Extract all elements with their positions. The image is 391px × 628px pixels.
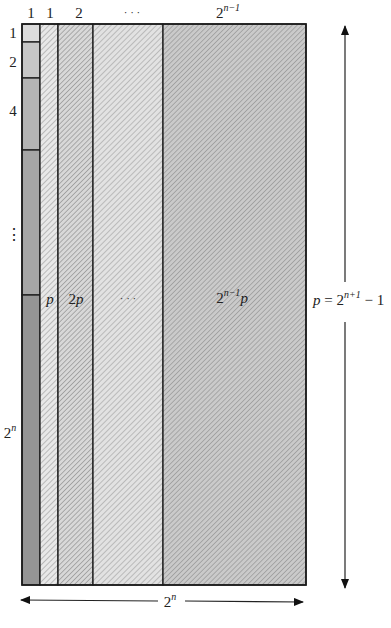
left-label-block-4: 4	[9, 103, 17, 119]
left-column	[22, 24, 40, 585]
strip-label-2: 2p	[69, 291, 85, 307]
strip-dots	[93, 24, 163, 585]
partition-diagram: 1 1 2 · · · 2n−1 1 2 4 ⋮ 2n p 2p · · · 2…	[0, 0, 391, 628]
height-dimension: p = 2n+1 − 1	[312, 26, 384, 588]
top-label-strip-1: 1	[46, 5, 54, 21]
top-labels: 1 1 2 · · · 2n−1	[27, 2, 240, 21]
strip-label-dots: · · ·	[120, 292, 137, 304]
left-label-block-2: 2	[9, 54, 17, 70]
left-block-2	[22, 42, 40, 78]
strip-last	[163, 24, 306, 585]
width-arrow-right	[185, 601, 303, 602]
top-label-strip-last: 2n−1	[216, 2, 240, 21]
top-label-strip-2: 2	[75, 5, 83, 21]
left-block-1	[22, 24, 40, 42]
top-label-left-column: 1	[27, 5, 35, 21]
strip-label-1: p	[45, 291, 54, 307]
left-label-block-dots: ⋮	[6, 226, 22, 243]
left-block-2n	[22, 295, 40, 585]
left-block-4	[22, 78, 40, 150]
left-label-block-1: 1	[9, 25, 17, 41]
width-dimension: 2n	[21, 591, 303, 610]
width-arrow-left	[21, 600, 158, 601]
left-label-block-2n: 2n	[4, 422, 17, 441]
top-label-strip-dots: · · ·	[124, 6, 141, 18]
left-block-dots	[22, 150, 40, 295]
width-label: 2n	[164, 591, 177, 610]
left-labels: 1 2 4 ⋮ 2n	[4, 25, 22, 441]
height-label: p = 2n+1 − 1	[312, 289, 384, 308]
